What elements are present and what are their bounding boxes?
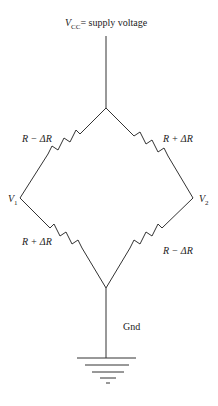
resistor-bottom-right-label: R − ΔR [163,245,193,256]
resistor-bottom-left-label: R + ΔR [22,236,52,247]
resistor-top-right-label: R + ΔR [163,133,193,144]
bridge-circuit [0,0,218,406]
node-v1-label: V1 [8,193,18,207]
resistor-top-left-label: R − ΔR [22,133,52,144]
ground-label: Gnd [123,321,140,332]
supply-text: = supply voltage [80,17,147,28]
node-v2-subscript: 2 [205,199,209,207]
supply-voltage-label: VCC= supply voltage [65,17,147,31]
node-v1-subscript: 1 [14,199,18,207]
node-v2-label: V2 [199,193,209,207]
